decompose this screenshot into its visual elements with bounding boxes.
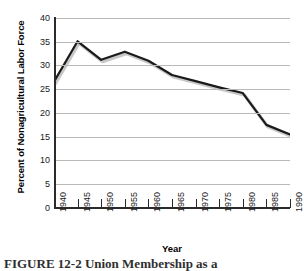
y-axis-tick-labels: 40 35 30 25 20 15 10 5 0 <box>26 0 50 265</box>
gridline-15 <box>54 137 290 138</box>
y-tick-label-30: 30 <box>28 61 50 70</box>
x-tick-label-1955: 1955 <box>129 182 139 212</box>
y-tick-label-5: 5 <box>28 180 50 189</box>
x-tick-mark-1960 <box>148 199 149 208</box>
x-tick-mark-1975 <box>219 199 220 208</box>
gridline-20 <box>54 113 290 114</box>
y-tick-label-25: 25 <box>28 85 50 94</box>
x-tick-mark-1965 <box>172 199 173 208</box>
x-axis-title: Year <box>54 243 290 254</box>
x-tick-label-1985: 1985 <box>270 182 280 212</box>
plot-area <box>54 18 290 208</box>
x-tick-label-1960: 1960 <box>152 182 162 212</box>
x-tick-mark-1970 <box>196 199 197 208</box>
x-tick-mark-1955 <box>125 199 126 208</box>
x-tick-label-1970: 1970 <box>200 182 210 212</box>
y-tick-label-0: 0 <box>28 204 50 213</box>
y-tick-label-40: 40 <box>28 14 50 23</box>
x-tick-label-1980: 1980 <box>247 182 257 212</box>
gridline-35 <box>54 42 290 43</box>
x-tick-label-1940: 1940 <box>58 182 68 212</box>
x-tick-label-1965: 1965 <box>176 182 186 212</box>
y-tick-label-20: 20 <box>28 109 50 118</box>
y-axis-line <box>54 17 56 209</box>
gridline-30 <box>54 65 290 66</box>
x-tick-mark-1940 <box>54 199 55 208</box>
x-tick-mark-1945 <box>78 199 79 208</box>
gridline-25 <box>54 89 290 90</box>
x-tick-mark-1950 <box>101 199 102 208</box>
x-tick-label-1945: 1945 <box>82 182 92 212</box>
x-tick-mark-1990 <box>290 199 291 208</box>
x-tick-mark-1980 <box>243 199 244 208</box>
gridline-10 <box>54 160 290 161</box>
figure-caption: FIGURE 12-2 Union Membership as a <box>4 256 301 271</box>
x-tick-mark-1985 <box>266 199 267 208</box>
x-tick-label-1950: 1950 <box>105 182 115 212</box>
x-tick-label-1990: 1990 <box>294 182 304 212</box>
x-tick-label-1975: 1975 <box>223 182 233 212</box>
y-tick-label-15: 15 <box>28 133 50 142</box>
gridline-40 <box>54 18 290 19</box>
y-tick-label-35: 35 <box>28 38 50 47</box>
y-tick-label-10: 10 <box>28 156 50 165</box>
